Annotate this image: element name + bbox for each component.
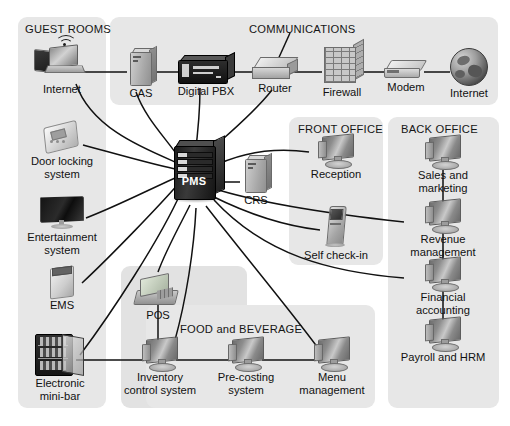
node-label: Internet — [450, 87, 488, 100]
node-financial-accounting[interactable]: Financial accounting — [395, 258, 491, 316]
pbx-chassis-icon — [178, 54, 234, 84]
brick-wall-firewall-icon — [321, 45, 363, 85]
node-sales-and-marketing[interactable]: Sales and marketing — [395, 136, 491, 194]
node-reception[interactable]: Reception — [288, 135, 384, 181]
node-label: POS — [146, 309, 170, 322]
node-entertainment-system[interactable]: Entertainment system — [14, 196, 110, 256]
node-label: Electronic mini-bar — [35, 377, 84, 402]
node-label: Financial accounting — [395, 291, 491, 316]
desktop-monitor-icon — [424, 318, 462, 350]
node-label: Door locking system — [31, 155, 93, 180]
node-label: Digital PBX — [178, 85, 235, 98]
node-internet[interactable]: Internet — [421, 48, 510, 100]
node-pos[interactable]: POS — [110, 276, 206, 322]
node-revenue-management[interactable]: Revenue management — [395, 200, 491, 258]
node-label: Self check-in — [304, 249, 368, 262]
node-menu-management[interactable]: Menu management — [284, 338, 380, 396]
node-label: Revenue management — [395, 233, 491, 258]
node-label: Menu management — [299, 371, 364, 396]
pos-terminal-icon — [135, 276, 181, 308]
desktop-monitor-icon — [317, 135, 355, 167]
node-label: Pre-costing system — [218, 371, 275, 396]
globe-icon — [450, 48, 488, 86]
node-inventory-control-system[interactable]: Inventory control system — [112, 338, 208, 396]
node-label: Firewall — [323, 86, 362, 99]
node-label: Router — [258, 82, 292, 95]
door-lock-panel-icon — [42, 122, 82, 154]
node-self-check-in[interactable]: Self check-in — [288, 206, 384, 262]
node-label: Reception — [311, 168, 361, 181]
desktop-monitor-icon — [424, 136, 462, 168]
node-pre-costing-system[interactable]: Pre-costing system — [198, 338, 294, 396]
desktop-monitor-icon — [313, 338, 351, 370]
node-label: Sales and marketing — [395, 169, 491, 194]
tower-server-icon — [126, 48, 156, 86]
laptop-tablet-wifi-icon — [34, 42, 90, 82]
node-label: CAS — [129, 87, 152, 100]
kiosk-icon — [321, 206, 351, 248]
node-electronic-mini-bar[interactable]: Electronic mini-bar — [12, 334, 108, 402]
tower-server-icon — [241, 155, 271, 193]
router-icon — [252, 57, 298, 81]
node-label: EMS — [50, 299, 74, 312]
diagram-canvas: GUEST ROOMS COMMUNICATIONS FRONT OFFICE … — [0, 0, 510, 426]
desktop-monitor-icon — [424, 200, 462, 232]
desktop-monitor-icon — [227, 338, 265, 370]
node-label: CRS — [244, 194, 268, 207]
desktop-monitor-icon — [424, 258, 462, 290]
desktop-monitor-icon — [141, 338, 179, 370]
node-label: Internet — [43, 83, 81, 96]
link-pms-pos — [158, 205, 190, 272]
node-door-locking[interactable]: Door locking system — [14, 122, 110, 180]
node-label: Entertainment system — [27, 231, 97, 256]
television-icon — [39, 196, 85, 230]
energy-management-box-icon — [47, 264, 77, 298]
node-label: Inventory control system — [124, 371, 196, 396]
mini-bar-fridge-icon — [35, 334, 85, 376]
node-payroll-and-hrm[interactable]: Payroll and HRM — [395, 318, 491, 364]
node-label: Modem — [387, 81, 424, 94]
node-ems[interactable]: EMS — [14, 264, 110, 312]
node-label: Payroll and HRM — [401, 351, 486, 364]
